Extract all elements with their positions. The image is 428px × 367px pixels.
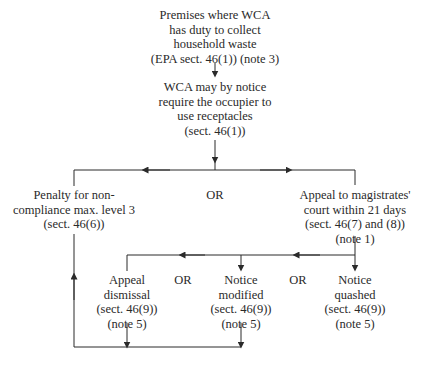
node-text: WCA may by notice [159,80,272,95]
node-text: (note 5) [324,317,385,332]
or-label-right: OR [289,273,306,288]
node-premises: Premises where WCA has duty to collect h… [151,8,279,66]
node-text: Premises where WCA [151,8,279,23]
flowchart-diagram: Premises where WCA has duty to collect h… [0,0,428,367]
or-label-left: OR [174,273,191,288]
node-text: (note 1) [299,232,410,247]
node-text: compliance max. level 3 [13,203,135,218]
node-text: court within 21 days [299,203,410,218]
node-penalty: Penalty for non- compliance max. level 3… [13,188,135,232]
node-text: (sect. 46(7) and (8)) [299,217,410,232]
node-text: quashed [324,288,385,303]
node-text: require the occupier to [159,95,272,110]
node-wca-notice: WCA may by notice require the occupier t… [159,80,272,138]
node-text: (sect. 46(6)) [13,217,135,232]
node-text: (sect. 46(9)) [210,302,271,317]
node-text: Penalty for non- [13,188,135,203]
node-text: (sect. 46(9)) [96,302,157,317]
node-text: Appeal [96,273,157,288]
node-text: (EPA sect. 46(1)) (note 3) [151,52,279,67]
node-text: has duty to collect [151,23,279,38]
or-label-top: OR [206,188,223,203]
node-text: Notice [210,273,271,288]
node-text: (sect. 46(9)) [324,302,385,317]
node-text: dismissal [96,288,157,303]
node-appeal-dismissal: Appeal dismissal (sect. 46(9)) (note 5) [96,273,157,331]
node-text: household waste [151,37,279,52]
node-text: modified [210,288,271,303]
node-text: (note 5) [96,317,157,332]
node-notice-quashed: Notice quashed (sect. 46(9)) (note 5) [324,273,385,331]
node-text: (sect. 46(1)) [159,124,272,139]
node-text: Notice [324,273,385,288]
node-notice-modified: Notice modified (sect. 46(9)) (note 5) [210,273,271,331]
node-text: (note 5) [210,317,271,332]
node-text: Appeal to magistrates' [299,188,410,203]
node-text: use receptacles [159,109,272,124]
node-appeal: Appeal to magistrates' court within 21 d… [299,188,410,246]
